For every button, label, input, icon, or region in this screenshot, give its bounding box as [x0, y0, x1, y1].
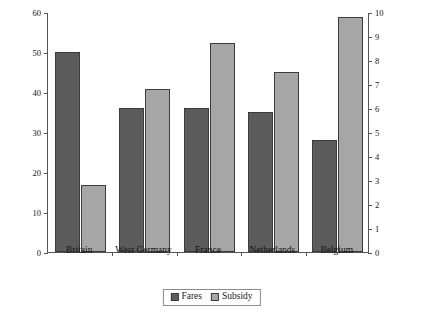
bar-fares	[248, 112, 273, 252]
tick-mark	[44, 173, 48, 174]
tick-mark	[44, 53, 48, 54]
bar-chart: Fares pence operating per mile costs Sub…	[0, 0, 423, 317]
tick-mark	[44, 133, 48, 134]
tick-mark	[368, 205, 372, 206]
bar-fares	[119, 108, 144, 252]
legend-swatch-subsidy-icon	[211, 293, 219, 301]
bar-subsidy	[145, 89, 170, 252]
right-axis-tick-label: 7	[375, 81, 379, 90]
x-axis-label: Britain	[47, 245, 111, 255]
legend-label-subsidy: Subsidy	[222, 292, 253, 302]
bar-group	[312, 13, 363, 252]
left-axis-tick-label: 40	[33, 89, 42, 98]
tick-mark	[44, 93, 48, 94]
tick-mark	[368, 37, 372, 38]
bar-subsidy	[210, 43, 235, 252]
left-axis-tick-label: 0	[37, 249, 41, 258]
right-axis-tick-label: 10	[375, 9, 384, 18]
x-axis-label: Belgium	[305, 245, 369, 255]
tick-mark	[44, 13, 48, 14]
bar-group	[248, 13, 299, 252]
bar-subsidy	[338, 17, 363, 252]
right-axis-tick-label: 2	[375, 201, 379, 210]
tick-mark	[368, 61, 372, 62]
chart-legend: Fares Subsidy	[162, 289, 260, 306]
right-axis-tick-label: 8	[375, 57, 379, 66]
legend-label-fares: Fares	[181, 292, 202, 302]
x-axis-label: West Germany	[111, 245, 175, 255]
left-axis-tick-label: 60	[33, 9, 42, 18]
tick-mark	[368, 157, 372, 158]
right-axis-tick-label: 0	[375, 249, 379, 258]
legend-swatch-fares-icon	[170, 293, 178, 301]
tick-mark	[368, 13, 372, 14]
right-axis-tick-label: 1	[375, 225, 379, 234]
tick-mark	[368, 229, 372, 230]
bar-group	[184, 13, 235, 252]
tick-mark	[368, 133, 372, 134]
x-axis-label: Netherlands	[240, 245, 304, 255]
right-axis-tick-label: 5	[375, 129, 379, 138]
right-axis-tick-label: 4	[375, 153, 379, 162]
tick-mark	[368, 181, 372, 182]
right-axis-tick-label: 6	[375, 105, 379, 114]
left-axis-tick-label: 30	[33, 129, 42, 138]
bar-fares	[184, 108, 209, 252]
legend-item-subsidy: Subsidy	[211, 292, 253, 302]
tick-mark	[44, 213, 48, 214]
tick-mark	[368, 85, 372, 86]
tick-mark	[368, 109, 372, 110]
bar-subsidy	[274, 72, 299, 252]
bar-group	[119, 13, 170, 252]
left-axis-tick-label: 50	[33, 49, 42, 58]
right-axis-tick-label: 9	[375, 33, 379, 42]
right-axis-tick-label: 3	[375, 177, 379, 186]
plot-area: Fares pence operating per mile costs Sub…	[47, 13, 369, 253]
left-axis-tick-label: 10	[33, 209, 42, 218]
bar-group	[55, 13, 106, 252]
bar-fares	[312, 140, 337, 252]
left-axis-tick-label: 20	[33, 169, 42, 178]
bar-fares	[55, 52, 80, 252]
legend-item-fares: Fares	[170, 292, 202, 302]
bar-subsidy	[81, 185, 106, 252]
x-axis-label: France	[176, 245, 240, 255]
